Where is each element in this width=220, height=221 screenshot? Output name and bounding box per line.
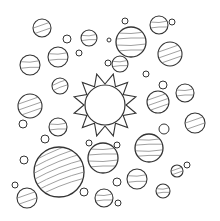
planet-icon [20, 55, 40, 75]
moon-icon [105, 60, 111, 66]
coloring-page-canvas [0, 0, 220, 221]
planet-icon [171, 165, 183, 177]
planet-icon [34, 141, 84, 199]
planet-icon [156, 184, 170, 198]
moon-icon [41, 135, 49, 143]
planet-icon [176, 84, 194, 102]
planet-icon [112, 56, 128, 72]
planet-icon [150, 16, 168, 34]
planet-icon [147, 91, 169, 113]
sun-disc [85, 85, 125, 125]
moon-icon [63, 35, 71, 43]
sun-icon [74, 74, 136, 136]
moon-icon [86, 140, 92, 146]
moon-icon [19, 120, 27, 128]
planet-icon [18, 94, 42, 118]
planet-icon [127, 169, 147, 189]
planet-icon [95, 189, 113, 207]
planet-icon [33, 19, 51, 37]
moon-icon [122, 18, 128, 24]
moon-icon [114, 142, 120, 148]
moon-icon [184, 162, 190, 168]
moon-icon [159, 81, 167, 89]
planet-icon [52, 78, 68, 94]
moon-icon [113, 178, 121, 186]
moon-icon [115, 200, 121, 206]
moon-icon [159, 124, 169, 134]
moon-icon [80, 188, 88, 196]
moon-icon [169, 19, 175, 25]
planet-icon [158, 42, 182, 66]
moon-icon [12, 182, 18, 188]
moon-icon [20, 156, 28, 164]
planet-icon [135, 134, 163, 162]
sun-and-planets-illustration [0, 0, 220, 221]
planet-icon [49, 118, 67, 136]
moon-icon [76, 50, 82, 56]
moon-icon [107, 38, 111, 42]
moon-icon [143, 71, 149, 77]
planet-icon [88, 143, 118, 173]
planet-icon [81, 30, 97, 46]
planet-icon [116, 27, 146, 57]
planet-icon [48, 47, 68, 67]
planet-icon [17, 188, 37, 208]
planet-icon [185, 113, 205, 133]
